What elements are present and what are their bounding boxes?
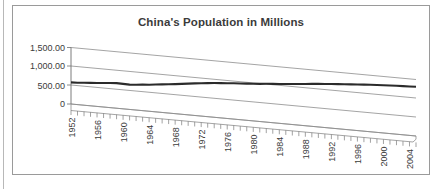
y-axis-labels: 1,500.00 1,000.00 500.00 0 (30, 43, 65, 109)
x-tick-label: 1960 (119, 122, 129, 142)
page-margin-rule (3, 0, 4, 189)
x-tick-label: 1952 (67, 118, 77, 138)
x-tick-label: 2000 (379, 146, 389, 166)
x-tick-label: 1996 (353, 144, 363, 164)
x-tick-label: 1976 (223, 132, 233, 152)
x-tick-label: 1992 (327, 142, 337, 162)
chart-plot-area: 1,500.00 1,000.00 500.00 0 (13, 6, 431, 174)
x-tick-label: 1956 (93, 120, 103, 140)
y-tick-label: 1,000.00 (30, 61, 65, 71)
x-tick-label: 1984 (275, 137, 285, 157)
x-tick-label: 1968 (171, 127, 181, 147)
x-axis-labels: 1952195619601964196819721976198019841988… (67, 118, 415, 169)
y-axis (67, 48, 71, 105)
x-tick-label: 1972 (197, 130, 207, 150)
y-tick-label: 1,500.00 (30, 43, 65, 53)
chart-frame: China's Population in Millions 1,500.00 … (12, 5, 430, 175)
x-tick-label: 1964 (145, 125, 155, 145)
y-tick-label: 0 (60, 99, 65, 109)
x-tick-label: 1988 (301, 139, 311, 159)
x-tick-label: 1980 (249, 134, 259, 154)
y-tick-label: 500.00 (37, 81, 65, 91)
data-series-line (71, 82, 416, 86)
x-tick-label: 2004 (405, 149, 415, 169)
